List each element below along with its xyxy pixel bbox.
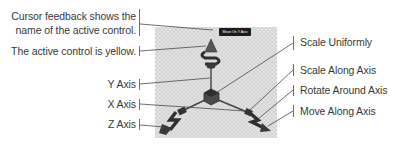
rotate-y-ring-icon[interactable] — [202, 52, 219, 64]
scale-x-cube-icon[interactable] — [177, 107, 187, 116]
cursor-feedback-tooltip: Move On Y Axis — [219, 28, 251, 36]
scale-y-cube-icon[interactable] — [207, 63, 216, 69]
y-axis-gizmo[interactable] — [202, 39, 219, 69]
move-x-cone-icon[interactable] — [159, 124, 172, 135]
gizmo-diagram — [0, 0, 395, 144]
x-axis-gizmo[interactable] — [159, 107, 187, 135]
move-z-cone-icon[interactable] — [260, 123, 271, 132]
right-leader-lines — [216, 36, 294, 126]
move-y-cone-icon[interactable] — [205, 39, 217, 52]
center-cube-scale-uniform[interactable] — [204, 89, 219, 105]
rotate-x-ring-icon[interactable] — [170, 112, 178, 130]
rotate-z-ring-icon[interactable] — [250, 113, 262, 127]
